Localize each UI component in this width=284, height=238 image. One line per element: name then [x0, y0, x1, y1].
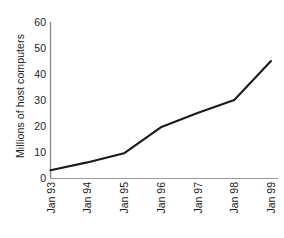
data-series-line	[51, 61, 272, 170]
plot-area	[0, 0, 284, 238]
line-chart-figure: Millions of host computers 0102030405060…	[0, 0, 284, 238]
